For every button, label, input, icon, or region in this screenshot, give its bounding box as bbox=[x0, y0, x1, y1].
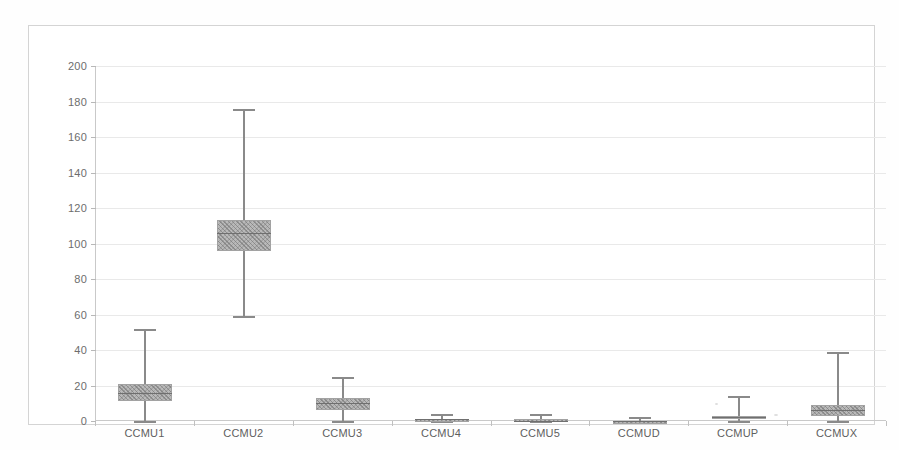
box-plot-ccmu2 bbox=[195, 66, 294, 421]
figure-canvas: 020406080100120140160180200 CCMU1CCMU2CC… bbox=[0, 0, 899, 450]
y-axis-tick-label: 100 bbox=[68, 238, 87, 250]
x-axis-tick-mark bbox=[787, 421, 788, 426]
y-axis-tick-mark bbox=[91, 208, 96, 209]
x-axis-tick-label: CCMU3 bbox=[322, 427, 362, 439]
y-axis-tick-mark bbox=[91, 350, 96, 351]
y-axis-tick-mark bbox=[91, 173, 96, 174]
whisker-line bbox=[144, 329, 146, 421]
box-plot-ccmu3 bbox=[294, 66, 393, 421]
x-axis-tick-mark bbox=[491, 421, 492, 426]
x-axis-tick-label: CCMUP bbox=[717, 427, 758, 439]
whisker-cap-upper bbox=[827, 352, 849, 354]
y-axis-tick-labels: 020406080100120140160180200 bbox=[29, 66, 87, 421]
x-axis-tick-mark bbox=[688, 421, 689, 426]
y-axis-tick-mark bbox=[91, 421, 96, 422]
x-axis-tick-label: CCMUX bbox=[816, 427, 857, 439]
y-axis-tick-label: 60 bbox=[74, 309, 87, 321]
plot-area bbox=[95, 66, 886, 421]
scan-speck bbox=[715, 403, 718, 405]
whisker-cap-lower bbox=[134, 421, 156, 423]
chart-frame: 020406080100120140160180200 CCMU1CCMU2CC… bbox=[28, 25, 875, 425]
median-line bbox=[316, 403, 370, 404]
x-axis-tick-mark bbox=[392, 421, 393, 426]
y-axis-tick-label: 20 bbox=[74, 380, 87, 392]
whisker-cap-lower bbox=[233, 316, 255, 318]
box-plot-ccmux bbox=[788, 66, 887, 421]
median-line bbox=[712, 417, 766, 418]
box-plot-ccmu1 bbox=[96, 66, 195, 421]
y-axis-tick-label: 80 bbox=[74, 273, 87, 285]
box-iqr bbox=[217, 220, 271, 250]
whisker-line bbox=[243, 109, 245, 317]
whisker-cap-upper bbox=[332, 377, 354, 379]
whisker-cap-upper bbox=[233, 109, 255, 111]
median-line bbox=[118, 393, 172, 394]
y-axis-tick-label: 200 bbox=[68, 60, 87, 72]
whisker-cap-lower bbox=[332, 421, 354, 423]
x-axis-tick-label: CCMU1 bbox=[124, 427, 164, 439]
x-axis-tick-mark bbox=[886, 421, 887, 426]
y-axis-tick-mark bbox=[91, 386, 96, 387]
x-axis-tick-label: CCMU5 bbox=[520, 427, 560, 439]
median-line bbox=[613, 421, 667, 422]
y-axis-tick-label: 0 bbox=[81, 415, 87, 427]
y-axis-tick-mark bbox=[91, 66, 96, 67]
y-axis-tick-mark bbox=[91, 279, 96, 280]
y-axis-tick-label: 160 bbox=[68, 131, 87, 143]
whisker-cap-upper bbox=[431, 414, 453, 416]
x-axis-tick-label: CCMU4 bbox=[421, 427, 461, 439]
y-axis-tick-mark bbox=[91, 102, 96, 103]
y-axis-tick-mark bbox=[91, 315, 96, 316]
box-plot-ccmu5 bbox=[492, 66, 591, 421]
median-line bbox=[415, 419, 469, 420]
whisker-cap-lower bbox=[827, 421, 849, 423]
box-plot-ccmud bbox=[590, 66, 689, 421]
whisker-cap-upper bbox=[629, 417, 651, 419]
median-line bbox=[217, 233, 271, 234]
y-axis-tick-mark bbox=[91, 244, 96, 245]
median-line bbox=[514, 421, 568, 422]
y-axis-tick-label: 40 bbox=[74, 344, 87, 356]
box-plot-ccmup bbox=[689, 66, 788, 421]
whisker-cap-lower bbox=[728, 421, 750, 423]
whisker-cap-upper bbox=[530, 414, 552, 416]
y-axis-tick-label: 120 bbox=[68, 202, 87, 214]
box-plot-ccmu4 bbox=[393, 66, 492, 421]
y-axis-tick-label: 140 bbox=[68, 167, 87, 179]
scan-speck bbox=[774, 414, 778, 416]
x-axis-tick-mark bbox=[589, 421, 590, 426]
whisker-cap-upper bbox=[134, 329, 156, 331]
whisker-cap-upper bbox=[728, 396, 750, 398]
x-axis-tick-mark bbox=[293, 421, 294, 426]
y-axis-tick-label: 180 bbox=[68, 96, 87, 108]
y-axis-tick-mark bbox=[91, 137, 96, 138]
x-axis-tick-label: CCMU2 bbox=[223, 427, 263, 439]
x-axis-tick-mark bbox=[194, 421, 195, 426]
median-line bbox=[811, 410, 865, 411]
x-axis-tick-label: CCMUD bbox=[618, 427, 660, 439]
